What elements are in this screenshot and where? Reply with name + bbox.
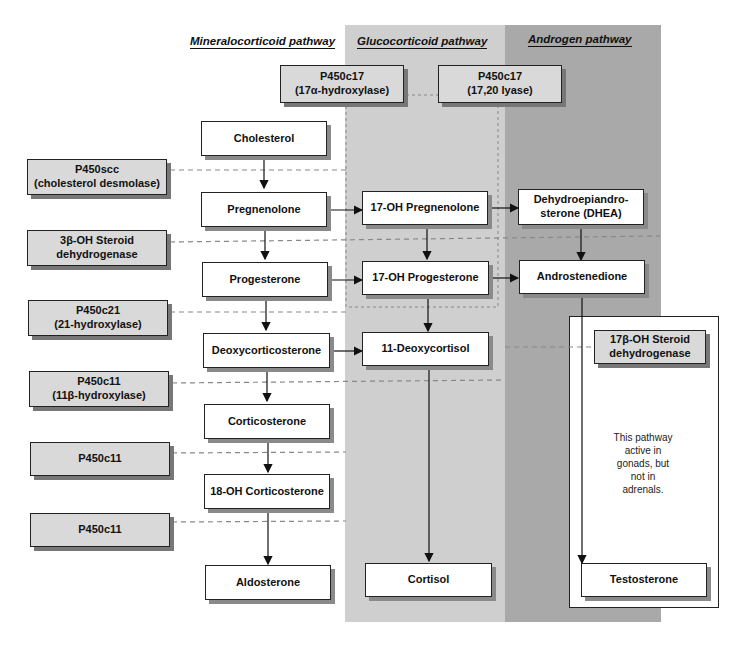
node-dhea: Dehydroepiandro- sterone (DHEA) (518, 189, 644, 225)
enzyme-p450c21: P450c21 (21-hydroxylase) (28, 300, 168, 336)
enzyme-p450c11-second: P450c11 (30, 442, 170, 476)
enzyme-p450c11-11b: P450c11 (11β-hydroxylase) (29, 371, 169, 407)
node-cortisol: Cortisol (365, 563, 492, 597)
node-deoxycorticosterone: Deoxycorticosterone (203, 333, 330, 368)
enzyme-p450c17-hydroxylase: P450c17 (17α-hydroxylase) (280, 65, 404, 103)
node-corticosterone: Corticosterone (204, 404, 330, 439)
enzyme-3b-hsd: 3β-OH Steroid dehydrogenase (27, 230, 167, 266)
gonad-note: This pathway active in gonads, but not i… (593, 431, 693, 496)
enzyme-p450scc: P450scc (cholesterol desmolase) (27, 159, 167, 195)
node-18oh-corticosterone: 18-OH Corticosterone (204, 474, 330, 509)
node-progesterone: Progesterone (202, 262, 328, 297)
enzyme-p450c11-third: P450c11 (30, 513, 170, 547)
node-aldosterone: Aldosterone (205, 565, 331, 600)
node-testosterone: Testosterone (581, 563, 707, 597)
enzyme-p450c17-lyase: P450c17 (17,20 lyase) (438, 65, 562, 103)
node-17oh-progesterone: 17-OH Progesterone (362, 261, 489, 295)
node-11-deoxycortisol: 11-Deoxycortisol (362, 332, 489, 366)
node-17oh-pregnenolone: 17-OH Pregnenolone (362, 191, 488, 225)
node-pregnenolone: Pregnenolone (201, 192, 327, 227)
node-cholesterol: Cholesterol (201, 121, 327, 156)
enzyme-17b-hsd: 17β-OH Steroid dehydrogenase (594, 330, 706, 364)
node-androstenedione: Androstenedione (519, 260, 645, 294)
